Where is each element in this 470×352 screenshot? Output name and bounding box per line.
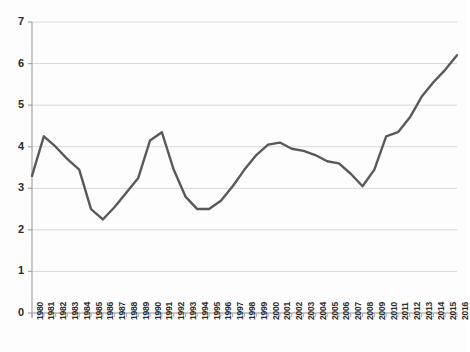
x-axis-tick-label: 2004 xyxy=(319,302,328,320)
x-axis-tick-label: 1988 xyxy=(130,302,139,320)
x-axis-tick-label: 2002 xyxy=(295,302,304,320)
x-axis-tick-label: 2005 xyxy=(331,302,340,320)
x-axis-tick-label: 1990 xyxy=(154,302,163,320)
x-axis-tick-label: 1998 xyxy=(248,302,257,320)
x-axis-tick-label: 1983 xyxy=(71,302,80,320)
data-series-line xyxy=(32,55,457,219)
y-axis-tick-label: 4 xyxy=(0,141,24,152)
x-axis-tick-label: 1989 xyxy=(142,302,151,320)
series-line xyxy=(32,55,457,219)
x-axis-tick-label: 1995 xyxy=(213,302,222,320)
x-axis-tick-label: 2003 xyxy=(307,302,316,320)
x-axis-tick-label: 2010 xyxy=(390,302,399,320)
x-axis-tick-label: 1982 xyxy=(59,302,68,320)
x-axis-tick-label: 1993 xyxy=(189,302,198,320)
x-axis-tick-label: 2011 xyxy=(401,302,410,320)
y-axis-tick-label: 2 xyxy=(0,224,24,235)
x-axis-tick-label: 2009 xyxy=(378,302,387,320)
x-axis-tick-label: 2007 xyxy=(354,302,363,320)
x-axis-tick-label: 2016 xyxy=(461,302,470,320)
x-axis-tick-label: 1994 xyxy=(201,302,210,320)
x-axis-tick-label: 2006 xyxy=(342,302,351,320)
x-axis-tick-label: 2008 xyxy=(366,302,375,320)
x-axis-tick-label: 2001 xyxy=(283,302,292,320)
y-axis-tick-label: 1 xyxy=(0,265,24,276)
gridlines xyxy=(32,22,457,313)
y-axis-tick-label: 5 xyxy=(0,99,24,110)
x-axis-tick-label: 1996 xyxy=(224,302,233,320)
x-axis-tick-label: 2013 xyxy=(425,302,434,320)
x-axis-tick-label: 1997 xyxy=(236,302,245,320)
x-axis-tick-label: 1991 xyxy=(165,302,174,320)
x-axis-tick-label: 1980 xyxy=(36,302,45,320)
x-axis-tick-label: 2015 xyxy=(449,302,458,320)
x-axis-tick-label: 1981 xyxy=(47,302,56,320)
x-axis-tick-label: 1999 xyxy=(260,302,269,320)
x-axis-tick-label: 1984 xyxy=(83,302,92,320)
x-axis-tick-label: 1985 xyxy=(95,302,104,320)
x-axis-tick-label: 1992 xyxy=(177,302,186,320)
x-axis-tick-label: 1987 xyxy=(118,302,127,320)
x-axis-tick-label: 2000 xyxy=(272,302,281,320)
y-axis-tick-label: 3 xyxy=(0,182,24,193)
y-axis-tick-label: 0 xyxy=(0,307,24,318)
x-axis-tick-label: 2012 xyxy=(413,302,422,320)
x-axis-tick-label: 1986 xyxy=(106,302,115,320)
y-axis-tick-label: 7 xyxy=(0,16,24,27)
y-axis-tick-label: 6 xyxy=(0,58,24,69)
x-axis-tick-label: 2014 xyxy=(437,302,446,320)
